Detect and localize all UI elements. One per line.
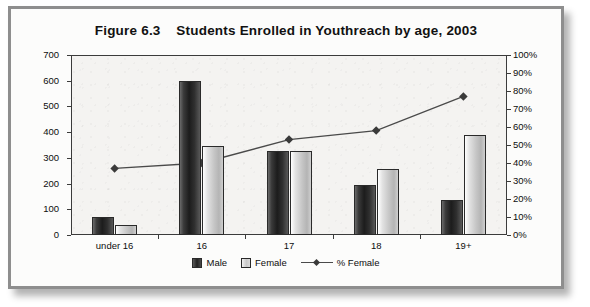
y-left-tick-label: 300 (43, 153, 59, 163)
bar-female-17 (290, 151, 312, 235)
x-axis-tick-mark (333, 235, 334, 239)
y-right-tick-label: 50% (513, 140, 532, 150)
y-right-tick-mark (507, 181, 511, 182)
y-right-tick-label: 100% (513, 50, 537, 60)
y-right-tick-mark (507, 145, 511, 146)
x-axis-tick-label: under 16 (96, 240, 134, 251)
legend-label-female: Female (255, 257, 287, 268)
y-left-tick-mark (67, 184, 71, 185)
legend-swatch-male-icon (192, 258, 202, 268)
bar-male-under-16 (92, 217, 114, 235)
bar-male-16 (179, 81, 201, 235)
y-right-tick-mark (507, 73, 511, 74)
y-left-tick-label: 700 (43, 50, 59, 60)
legend-line-marker-icon (301, 258, 333, 268)
y-right-tick-label: 60% (513, 122, 532, 132)
chart-legend: Male Female % Female (11, 257, 561, 268)
bar-male-17 (267, 151, 289, 235)
y-right-tick-label: 40% (513, 158, 532, 168)
y-left-tick-mark (67, 132, 71, 133)
bar-female-18 (377, 169, 399, 235)
legend-label-male: Male (206, 257, 227, 268)
figure-frame: Figure 6.3 Students Enrolled in Youthrea… (8, 6, 564, 289)
legend-item-percent-female: % Female (301, 257, 380, 268)
y-left-tick-label: 600 (43, 76, 59, 86)
figure-inner: Figure 6.3 Students Enrolled in Youthrea… (11, 9, 561, 286)
y-right-tick-mark (507, 91, 511, 92)
y-right-tick-label: 80% (513, 86, 532, 96)
legend-item-female: Female (241, 257, 287, 268)
y-left-tick-label: 0 (54, 230, 59, 240)
y-left-tick-label: 400 (43, 127, 59, 137)
x-axis-tick-label: 19+ (455, 240, 471, 251)
bar-female-under-16 (115, 225, 137, 235)
y-right-tick-label: 20% (513, 194, 532, 204)
y-right-tick-label: 10% (513, 212, 532, 222)
y-right-tick-label: 70% (513, 104, 532, 114)
y-right-tick-label: 0% (513, 230, 527, 240)
bar-female-16 (202, 146, 224, 235)
y-right-tick-mark (507, 109, 511, 110)
y-left-tick-mark (67, 209, 71, 210)
y-right-tick-label: 30% (513, 176, 532, 186)
legend-item-male: Male (192, 257, 227, 268)
y-right-tick-label: 90% (513, 68, 532, 78)
x-axis-tick-mark (245, 235, 246, 239)
x-axis-tick-label: 17 (284, 240, 295, 251)
y-right-tick-mark (507, 199, 511, 200)
y-right-tick-mark (507, 55, 511, 56)
y-left-tick-mark (67, 55, 71, 56)
y-right-tick-mark (507, 235, 511, 236)
y-right-tick-mark (507, 163, 511, 164)
y-left-tick-mark (67, 81, 71, 82)
y-left-tick-label: 200 (43, 179, 59, 189)
y-left-tick-mark (67, 235, 71, 236)
y-left-tick-mark (67, 158, 71, 159)
x-axis-tick-label: 16 (197, 240, 208, 251)
y-left-tick-label: 500 (43, 101, 59, 111)
y-right-tick-mark (507, 127, 511, 128)
legend-swatch-female-icon (241, 258, 251, 268)
y-left-tick-label: 100 (43, 204, 59, 214)
x-axis-tick-mark (158, 235, 159, 239)
bar-male-19+ (441, 200, 463, 235)
y-left-tick-mark (67, 106, 71, 107)
chart-title: Figure 6.3 Students Enrolled in Youthrea… (11, 23, 561, 38)
legend-label-percent-female: % Female (337, 257, 380, 268)
y-right-tick-mark (507, 217, 511, 218)
x-axis-tick-mark (420, 235, 421, 239)
bar-female-19+ (464, 135, 486, 235)
x-axis-tick-label: 18 (371, 240, 382, 251)
bar-male-18 (354, 185, 376, 235)
